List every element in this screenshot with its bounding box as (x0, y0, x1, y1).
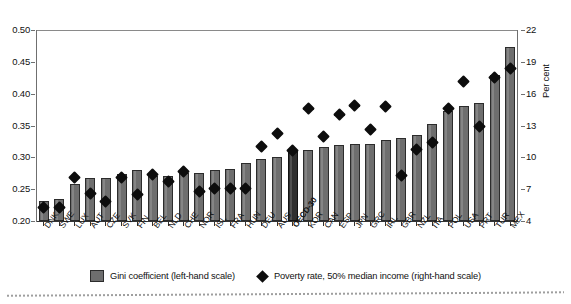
bar-tur (490, 75, 500, 221)
diamond-jpn (348, 99, 361, 112)
chart-figure: 0.500.450.400.350.300.250.20 22191613107… (0, 0, 571, 304)
y-axis-left (36, 30, 37, 222)
square-swatch-icon (90, 270, 104, 282)
y-tick-left-0.40: 0.40 (0, 88, 30, 99)
diamond-deu (255, 140, 268, 153)
diamond-esp (333, 109, 346, 122)
diamond-kor (302, 102, 315, 115)
y-tick-right-10: 10 (526, 151, 556, 162)
y-tick-left-0.20: 0.20 (0, 215, 30, 226)
chart-legend: Gini coefficient (left-hand scale) Pover… (0, 270, 571, 282)
legend-item-poverty: Poverty rate, 50% median income (right-h… (257, 271, 481, 281)
y-axis-right (517, 30, 518, 222)
legend-label-poverty: Poverty rate, 50% median income (right-h… (274, 271, 481, 281)
y-tick-left-0.35: 0.35 (0, 120, 30, 131)
bar-can (319, 147, 329, 221)
bar-fra (225, 169, 235, 221)
bar-jpn (350, 144, 360, 221)
bar-esp (334, 145, 344, 221)
diamond-can (317, 130, 330, 143)
diamond-lux (68, 171, 81, 184)
bar-oecd-30 (288, 150, 298, 221)
y-tick-left-0.25: 0.25 (0, 183, 30, 194)
y-tick-left-0.30: 0.30 (0, 151, 30, 162)
bar-bel (148, 176, 158, 221)
page-dotted-rule (6, 291, 564, 296)
diamond-irl (379, 100, 392, 113)
diamond-marker-icon (256, 270, 269, 283)
y-tick-left-0.45: 0.45 (0, 56, 30, 67)
diamond-aus (271, 128, 284, 141)
y-tick-right-4: 4 (526, 215, 556, 226)
bar-pol (443, 111, 453, 221)
y-tick-right-13: 13 (526, 120, 556, 131)
y-axis-right-title: Per cent (540, 64, 551, 98)
diamond-grc (364, 123, 377, 136)
plot-frame-top (36, 30, 518, 31)
bar-aus (272, 157, 282, 221)
bar-irl (381, 140, 391, 221)
bar-grc (365, 144, 375, 221)
bar-usa (459, 106, 469, 221)
legend-item-gini: Gini coefficient (left-hand scale) (90, 270, 235, 282)
legend-label-gini: Gini coefficient (left-hand scale) (110, 271, 235, 281)
y-tick-right-22: 22 (526, 24, 556, 35)
y-tick-left-0.50: 0.50 (0, 24, 30, 35)
diamond-usa (457, 76, 470, 89)
y-tick-right-7: 7 (526, 183, 556, 194)
